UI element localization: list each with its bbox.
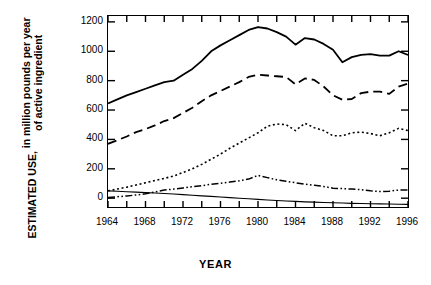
y-axis-title-line-2a: in million pounds per year	[20, 18, 32, 149]
x-axis-tick-label: 1972	[162, 216, 202, 228]
y-axis-tick-label: 600	[57, 104, 103, 114]
y-axis-tick-label: 400	[57, 133, 103, 143]
y-axis-tick-labels: 020040060080010001200	[55, 0, 103, 285]
x-axis-tick-labels: 196419681972197619801984198819921996	[0, 216, 431, 232]
y-axis-title-line-2: in million pounds per year of active ing…	[20, 18, 44, 149]
series-line-series-3	[108, 123, 408, 191]
x-axis-tick-label: 1984	[275, 216, 315, 228]
plot-lines	[108, 16, 408, 207]
y-axis-title-line-2b: of active ingredient	[32, 35, 44, 131]
x-axis-tick-label: 1996	[387, 216, 427, 228]
x-axis-title: YEAR	[0, 258, 431, 270]
x-axis-tick-label: 1992	[350, 216, 390, 228]
x-axis-tick-label: 1968	[125, 216, 165, 228]
x-axis-tick-label: 1976	[200, 216, 240, 228]
y-axis-title: ESTIMATED USE, in million pounds per yea…	[14, 28, 50, 228]
x-axis-tick-label: 1980	[237, 216, 277, 228]
y-axis-tick-label: 800	[57, 75, 103, 85]
series-line-series-4	[108, 175, 408, 197]
y-axis-tick-label: 200	[57, 163, 103, 173]
plot-area	[107, 15, 409, 208]
y-axis-tick-label: 0	[57, 192, 103, 202]
y-axis-tick-label: 1200	[57, 16, 103, 26]
x-axis-tick-label: 1988	[312, 216, 352, 228]
y-axis-tick-label: 1000	[57, 45, 103, 55]
x-axis-tick-label: 1964	[87, 216, 127, 228]
chart-figure: ESTIMATED USE, in million pounds per yea…	[0, 0, 431, 285]
